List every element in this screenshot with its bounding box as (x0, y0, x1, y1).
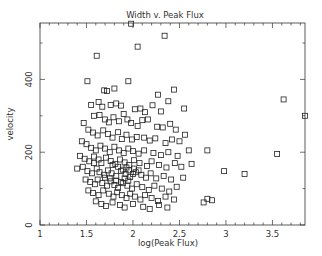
data-point (157, 162, 162, 167)
data-point (108, 102, 113, 107)
data-point (201, 200, 206, 205)
data-point (153, 136, 158, 141)
data-point (81, 121, 86, 126)
data-point (140, 185, 145, 190)
data-point (144, 164, 149, 169)
data-point (166, 99, 171, 104)
data-point (117, 119, 122, 124)
data-point (154, 176, 159, 181)
chart-title: Width v. Peak Flux (126, 10, 204, 20)
data-point (183, 132, 188, 137)
y-axis-label: velocity (5, 107, 15, 140)
data-point (166, 150, 171, 155)
data-point (155, 124, 160, 129)
data-point (189, 161, 194, 166)
data-point (142, 135, 147, 140)
data-point (106, 120, 111, 125)
data-point (174, 184, 179, 189)
data-point (94, 53, 99, 58)
plot-area (75, 21, 308, 211)
data-point (151, 150, 156, 155)
data-point (168, 121, 173, 126)
data-point (101, 188, 106, 193)
data-point (145, 117, 150, 122)
data-point (182, 106, 187, 111)
data-point (170, 137, 175, 142)
data-point (159, 186, 164, 191)
data-point (126, 79, 131, 84)
data-point (149, 159, 154, 164)
data-point (96, 193, 101, 198)
data-point (96, 99, 101, 104)
data-point (131, 158, 136, 163)
data-point (222, 169, 227, 174)
data-point (171, 197, 176, 202)
x-tick-label: 3 (223, 229, 228, 239)
data-point (275, 152, 280, 157)
data-point (85, 79, 90, 84)
data-point (163, 141, 168, 146)
data-point (135, 44, 140, 49)
x-axis-label: log(Peak Flux) (138, 238, 198, 248)
data-point (147, 138, 152, 143)
data-point (152, 183, 157, 188)
data-point (169, 177, 174, 182)
data-point (161, 173, 166, 178)
data-point (121, 111, 126, 116)
data-point (177, 139, 182, 144)
data-point (165, 205, 170, 210)
data-point (129, 121, 134, 126)
data-point (141, 204, 146, 209)
data-point (103, 117, 108, 122)
data-point (111, 115, 116, 120)
data-point (130, 201, 135, 206)
data-point (75, 166, 80, 171)
data-point (163, 194, 168, 199)
data-point (112, 86, 117, 91)
data-point (110, 200, 115, 205)
data-point (175, 153, 180, 158)
data-point (149, 196, 154, 201)
data-point (136, 151, 141, 156)
data-point (125, 117, 130, 122)
data-point (172, 161, 177, 166)
data-point (171, 87, 176, 92)
data-point (173, 127, 178, 132)
y-tick-label: 200 (24, 144, 34, 160)
data-point (93, 199, 98, 204)
data-point (146, 188, 151, 193)
x-tick-label: 3.5 (266, 229, 280, 239)
data-point (158, 109, 163, 114)
x-tick-label: 1.5 (80, 229, 94, 239)
data-point (158, 153, 163, 158)
data-point (132, 107, 137, 112)
y-tick-label: 400 (24, 71, 34, 87)
data-point (116, 130, 121, 135)
data-point (150, 103, 155, 108)
y-axis: 0200400 (24, 43, 305, 228)
data-point (205, 148, 210, 153)
x-tick-label: 1 (37, 229, 42, 239)
data-point (100, 104, 105, 109)
data-point (89, 102, 94, 107)
data-point (179, 164, 184, 169)
scatter-chart: Width v. Peak Flux 11.522.533.5 0200400 … (0, 0, 322, 256)
data-point (140, 118, 145, 123)
data-point (142, 148, 147, 153)
data-point (137, 161, 142, 166)
y-tick-label: 0 (24, 222, 34, 227)
x-tick-label: 2 (130, 229, 135, 239)
data-point (135, 124, 140, 129)
data-point (97, 113, 102, 118)
data-point (164, 165, 169, 170)
x-axis: 11.522.533.5 (37, 23, 300, 239)
data-point (181, 175, 186, 180)
data-point (91, 113, 96, 118)
data-point (147, 206, 152, 211)
data-point (160, 125, 165, 130)
data-point (186, 148, 191, 153)
data-point (156, 92, 161, 97)
data-point (242, 172, 247, 177)
data-point (167, 189, 172, 194)
data-point (281, 97, 286, 102)
